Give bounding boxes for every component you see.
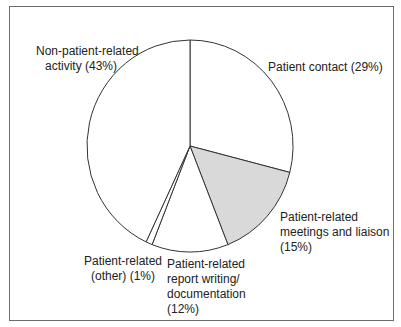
label-line: report writing/ <box>167 272 246 287</box>
label-line: (15%) <box>280 240 389 255</box>
label-line: meetings and liaison <box>280 225 389 240</box>
label-line: Non-patient-related <box>36 44 126 59</box>
label-line: Patient-related <box>280 210 389 225</box>
label-meetings: Patient-related meetings and liaison (15… <box>280 210 389 255</box>
label-non-patient: Non-patient-related activity (43%) <box>36 44 126 74</box>
label-line: Patient-related <box>80 254 166 269</box>
label-line: Patient contact (29%) <box>268 60 383 75</box>
label-other: Patient-related (other) (1%) <box>80 254 166 284</box>
label-line: documentation <box>167 287 246 302</box>
label-report: Patient-related report writing/ document… <box>167 257 246 317</box>
label-line: activity (43%) <box>36 59 126 74</box>
label-patient-contact: Patient contact (29%) <box>268 60 383 75</box>
label-line: (12%) <box>167 302 246 317</box>
label-line: (other) (1%) <box>80 269 166 284</box>
label-line: Patient-related <box>167 257 246 272</box>
